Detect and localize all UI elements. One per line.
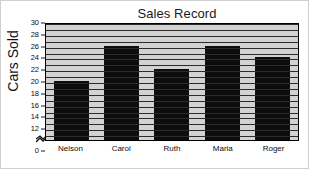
gridline-minor [46, 101, 298, 102]
gridline-minor [46, 124, 298, 125]
y-axis-tick-label: 18 [31, 90, 39, 98]
y-axis-tick-label: 0 [35, 147, 39, 155]
bar[interactable] [104, 46, 139, 140]
x-axis-tick-label: Roger [250, 144, 298, 153]
gridline [46, 24, 298, 25]
y-axis-tick-label: 30 [31, 19, 39, 27]
gridline-minor [46, 42, 298, 43]
gridline [46, 59, 298, 60]
y-axis-tick-label: 12 [31, 125, 39, 133]
y-axis-tick-label: 24 [31, 55, 39, 63]
gridline [46, 95, 298, 96]
y-axis-tick-label: 28 [31, 31, 39, 39]
plot-area [45, 23, 299, 141]
y-axis-tick-label: 16 [31, 102, 39, 110]
x-axis-tick-label: Carol [97, 144, 145, 153]
gridline [46, 107, 298, 108]
bar[interactable] [255, 57, 290, 140]
gridline-minor [46, 65, 298, 66]
gridline-minor [46, 54, 298, 55]
gridline [46, 130, 298, 131]
x-axis-tick-label: Nelson [46, 144, 94, 153]
gridline-minor [46, 136, 298, 137]
y-axis-tick-label: 20 [31, 78, 39, 86]
y-axis: 302826242220181614120 [1, 23, 45, 141]
y-axis-tick-label: 22 [31, 66, 39, 74]
gridline-minor [46, 113, 298, 114]
gridline-minor [46, 89, 298, 90]
x-axis-tick-label: Maria [199, 144, 247, 153]
y-axis-tick-label: 26 [31, 43, 39, 51]
gridline-minor [46, 77, 298, 78]
gridline [46, 83, 298, 84]
bar[interactable] [205, 46, 240, 140]
gridline [46, 71, 298, 72]
gridline [46, 118, 298, 119]
x-axis-tick-label: Ruth [148, 144, 196, 153]
x-axis: NelsonCarolRuthMariaRoger [45, 144, 299, 158]
gridline-minor [46, 30, 298, 31]
chart-title: Sales Record [57, 6, 297, 21]
gridline [46, 36, 298, 37]
chart-figure: Sales Record Cars Sold 30282624222018161… [0, 0, 309, 169]
gridline [46, 48, 298, 49]
y-axis-tick-label: 14 [31, 114, 39, 122]
